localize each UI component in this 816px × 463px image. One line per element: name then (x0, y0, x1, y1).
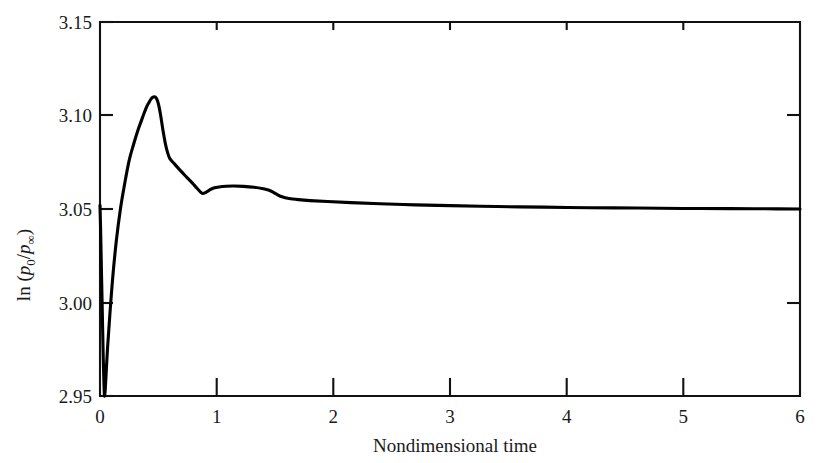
x-tick-label-6: 6 (795, 406, 805, 427)
x-tick-label-2: 2 (329, 406, 339, 427)
ylabel-p-sub2: ∞ (23, 235, 38, 244)
figure-container: 3.15 3.10 3.05 3.00 2.95 0 1 2 3 4 5 6 N… (0, 0, 816, 463)
y-tick-label-3.00: 3.00 (59, 293, 92, 314)
line-chart: 3.15 3.10 3.05 3.00 2.95 0 1 2 3 4 5 6 N… (0, 0, 816, 463)
data-series-line (100, 97, 800, 396)
ylabel-prefix: ln ( (13, 275, 35, 301)
x-tick-marks (217, 378, 684, 396)
y-axis-title: ln (p0/p∞) (13, 229, 38, 301)
ylabel-p-main2: p (13, 244, 34, 256)
ylabel-suffix: ) (13, 229, 35, 235)
y-axis-title-text: ln (p0/p∞) (13, 229, 38, 301)
x-tick-label-4: 4 (562, 406, 572, 427)
y-tick-labels: 3.15 3.10 3.05 3.00 2.95 (59, 12, 92, 407)
ylabel-p-main: p (13, 266, 34, 278)
y-tick-label-3.10: 3.10 (59, 105, 92, 126)
x-tick-marks-top (217, 22, 684, 30)
y-tick-label-3.15: 3.15 (59, 12, 92, 33)
x-tick-labels: 0 1 2 3 4 5 6 (95, 406, 805, 427)
x-axis-title: Nondimensional time (373, 435, 537, 456)
x-tick-label-0: 0 (95, 406, 105, 427)
y-tick-label-2.95: 2.95 (59, 386, 92, 407)
x-tick-label-3: 3 (445, 406, 455, 427)
x-tick-label-5: 5 (679, 406, 689, 427)
x-tick-label-1: 1 (212, 406, 222, 427)
y-tick-label-3.05: 3.05 (59, 199, 92, 220)
